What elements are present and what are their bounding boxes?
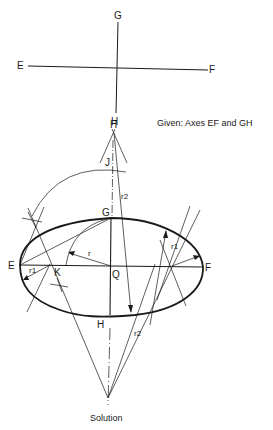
given-label-f: F xyxy=(209,64,215,75)
label-j: J xyxy=(105,157,110,168)
center-line-upper xyxy=(112,140,113,218)
ellipse-outline xyxy=(20,218,203,317)
label-k: K xyxy=(54,267,61,278)
arrow-r1-top-right xyxy=(163,230,168,238)
solution-caption: Solution xyxy=(90,413,123,423)
axis-ef xyxy=(28,66,208,70)
label-r1-right: r1 xyxy=(171,242,179,251)
label-f: F xyxy=(205,262,211,273)
given-caption: Given: Axes EF and GH xyxy=(157,118,253,128)
r2-upper-line xyxy=(114,133,131,312)
label-g: G xyxy=(102,207,110,218)
axis-g-h xyxy=(110,218,111,315)
label-r2-upper: r2 xyxy=(121,192,129,201)
bisector-eg xyxy=(28,208,108,398)
ellipse-construction-diagram: G E F H Given: Axes EF and GH xyxy=(0,0,273,430)
arrow-r1-left xyxy=(23,275,29,280)
line-apex-right xyxy=(108,210,200,398)
given-label-g: G xyxy=(114,10,122,21)
label-r: r xyxy=(88,249,91,258)
r2-lower-line xyxy=(108,264,155,398)
label-r2-lower: r2 xyxy=(134,329,142,338)
label-h-top: H xyxy=(110,119,117,130)
label-r1-left: r1 xyxy=(29,266,37,275)
label-q: Q xyxy=(112,269,120,280)
label-e: E xyxy=(8,260,15,271)
label-h: H xyxy=(97,319,104,330)
arc-mark-2 xyxy=(28,212,36,228)
given-label-e: E xyxy=(17,60,24,71)
given-axes xyxy=(28,22,208,113)
construction-lines xyxy=(20,129,203,405)
arrow-r2-upper xyxy=(128,305,133,313)
